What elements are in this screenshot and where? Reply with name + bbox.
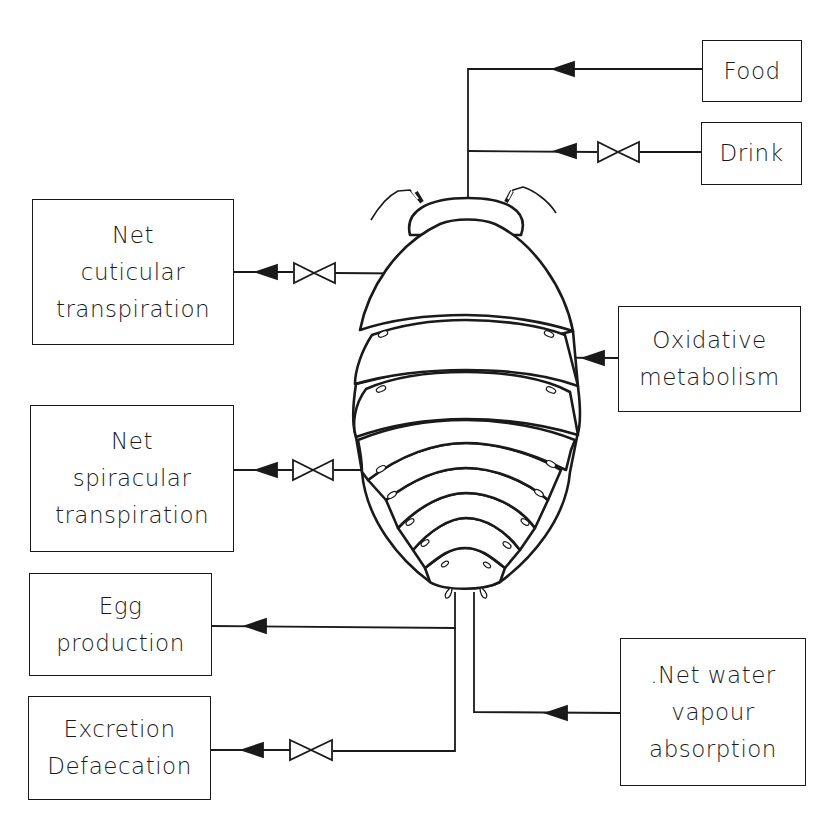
- spiracular-label-line3: transpiration: [55, 497, 209, 534]
- vapour-label-line2: vapour: [671, 694, 754, 731]
- food-label: Food: [723, 53, 780, 90]
- egg-label-line1: Egg: [99, 588, 143, 625]
- valve-icon: [293, 460, 333, 480]
- spiracular-connector: [233, 460, 380, 480]
- cuticular-label-line1: Net: [112, 217, 154, 254]
- excretion-defaecation-box: Excretion Defaecation: [28, 696, 211, 800]
- water-vapour-absorption-box: .Net water vapour absorption: [620, 638, 806, 786]
- valve-icon: [598, 142, 639, 162]
- drink-box: Drink: [701, 122, 802, 185]
- drink-connector: [468, 142, 701, 162]
- food-box: Food: [702, 40, 802, 102]
- egg-connector: [211, 592, 455, 633]
- cuticular-label-line2: cuticular: [81, 254, 185, 291]
- excretion-label-line2: Defaecation: [47, 748, 192, 785]
- egg-label-line2: production: [56, 625, 185, 662]
- vapour-connector: [474, 592, 620, 720]
- oxidative-label-line2: metabolism: [639, 359, 780, 396]
- vapour-label-line3: absorption: [649, 731, 777, 768]
- spiracular-label-line2: spiracular: [73, 460, 192, 497]
- oxidative-metabolism-box: Oxidative metabolism: [618, 306, 801, 412]
- woodlouse-body: [353, 187, 580, 598]
- valve-icon: [290, 740, 332, 760]
- oxidative-label-line1: Oxidative: [652, 322, 766, 359]
- cuticular-label-line3: transpiration: [56, 291, 210, 328]
- valve-icon: [294, 263, 335, 283]
- drink-label: Drink: [720, 135, 784, 172]
- vapour-label-line1: .Net water: [650, 657, 776, 694]
- egg-production-box: Egg production: [29, 573, 212, 676]
- spiracular-transpiration-box: Net spiracular transpiration: [30, 405, 234, 552]
- water-balance-diagram: Food Drink Net cuticular transpiration O…: [0, 0, 838, 823]
- food-connector: [468, 62, 702, 198]
- cuticular-transpiration-box: Net cuticular transpiration: [32, 199, 234, 345]
- pronotum: [360, 220, 573, 332]
- excretion-label-line1: Excretion: [63, 711, 175, 748]
- spiracular-label-line1: Net: [111, 423, 153, 460]
- excretion-connector: [210, 628, 455, 760]
